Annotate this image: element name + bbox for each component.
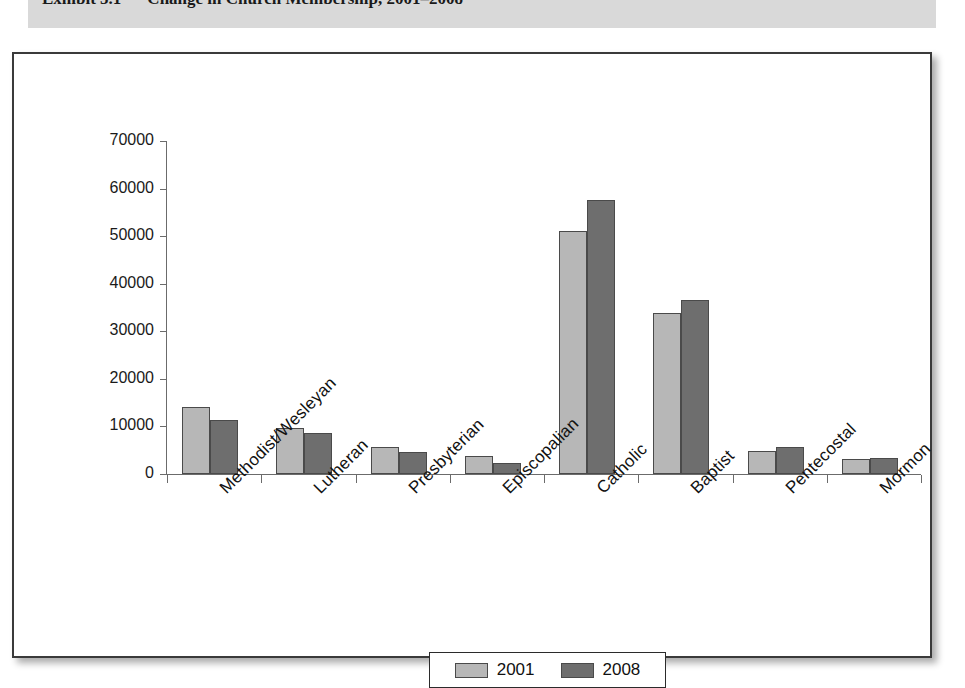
y-axis-tick bbox=[160, 331, 166, 332]
x-axis-tick bbox=[827, 475, 828, 483]
y-axis-tick-label: 40000 bbox=[64, 275, 154, 291]
legend-label-2008: 2008 bbox=[603, 660, 641, 680]
legend-swatch-2001 bbox=[455, 663, 488, 678]
exhibit-number: Exhibit 5.1 bbox=[42, 0, 121, 8]
bar-2001-presbyterian bbox=[371, 447, 399, 474]
legend-item-2001: 2001 bbox=[455, 660, 535, 680]
y-axis-tick-label-text: 60000 bbox=[70, 180, 154, 196]
x-axis-tick-origin bbox=[167, 475, 168, 483]
bar-2001-episcopalian bbox=[465, 456, 493, 474]
y-axis-tick bbox=[160, 189, 166, 190]
y-axis-tick-label-text: 30000 bbox=[70, 322, 154, 338]
y-axis-tick bbox=[160, 474, 166, 475]
exhibit-title: Change in Church Membership, 2001–2008 bbox=[147, 0, 463, 8]
legend-item-2008: 2008 bbox=[561, 660, 641, 680]
legend-label-2001: 2001 bbox=[497, 660, 535, 680]
y-axis-tick-label: 70000 bbox=[64, 132, 154, 148]
x-axis-tick bbox=[450, 475, 451, 483]
bar-2001-mormon bbox=[842, 459, 870, 474]
y-axis-tick-label: 20000 bbox=[64, 370, 154, 386]
y-axis-tick-label-text: 0 bbox=[70, 465, 154, 481]
x-axis-tick bbox=[261, 475, 262, 483]
y-axis-tick-label: 10000 bbox=[64, 417, 154, 433]
y-axis-tick-label-text: 40000 bbox=[70, 275, 154, 291]
plot-area: 010000200003000040000500006000070000 Met… bbox=[14, 54, 930, 656]
exhibit-header-text: Exhibit 5.1Change in Church Membership, … bbox=[42, 0, 463, 9]
bar-2008-catholic bbox=[587, 200, 615, 474]
x-axis-tick bbox=[733, 475, 734, 483]
y-axis-tick-label-text: 70000 bbox=[70, 132, 154, 148]
y-axis-tick bbox=[160, 426, 166, 427]
legend-swatch-2008 bbox=[561, 663, 594, 678]
y-axis-tick-label: 30000 bbox=[64, 322, 154, 338]
chart-legend: 20012008 bbox=[429, 652, 666, 688]
x-axis-tick bbox=[921, 475, 922, 483]
bar-2001-pentecostal bbox=[748, 451, 776, 474]
y-axis-tick bbox=[160, 141, 166, 142]
y-axis-tick bbox=[160, 284, 166, 285]
bar-2001-baptist bbox=[653, 313, 681, 474]
y-axis-tick-label: 60000 bbox=[64, 180, 154, 196]
bar-2008-baptist bbox=[681, 300, 709, 474]
y-axis-tick-label: 50000 bbox=[64, 227, 154, 243]
y-axis-tick-label-text: 10000 bbox=[70, 417, 154, 433]
y-axis-tick bbox=[160, 379, 166, 380]
y-axis-tick-label-text: 20000 bbox=[70, 370, 154, 386]
x-axis-tick bbox=[356, 475, 357, 483]
y-axis-tick bbox=[160, 236, 166, 237]
chart-frame: 010000200003000040000500006000070000 Met… bbox=[12, 52, 932, 658]
y-axis-tick-label: 0 bbox=[64, 465, 154, 481]
x-axis-tick bbox=[544, 475, 545, 483]
bar-2001-methodist-wesleyan bbox=[182, 407, 210, 474]
y-axis-tick-label-text: 50000 bbox=[70, 227, 154, 243]
x-axis-tick bbox=[638, 475, 639, 483]
exhibit-header-band: Exhibit 5.1Change in Church Membership, … bbox=[28, 0, 936, 28]
